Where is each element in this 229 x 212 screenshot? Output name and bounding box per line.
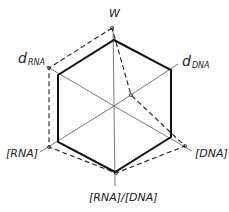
axis-dna (114, 106, 192, 151)
axis-lines (40, 26, 192, 186)
axis-w (113, 26, 114, 106)
label-d_dna: dDNA (182, 53, 210, 70)
label-rna_dna: [RNA]/[DNA] (89, 191, 158, 204)
label-dna: [DNA] (195, 147, 228, 160)
sample-profile-dashed (49, 28, 185, 173)
label-rna: [RNA] (6, 147, 38, 160)
axis-d_rna (46, 66, 114, 106)
axis-d_dna (114, 64, 178, 106)
label-d_rna: dRNA (18, 50, 45, 67)
axis-labels: WdDNA[DNA][RNA]/[DNA][RNA]dRNA (6, 7, 228, 204)
hexagon-radar-diagram: WdDNA[DNA][RNA]/[DNA][RNA]dRNA (0, 0, 229, 212)
label-w: W (109, 7, 121, 20)
axis-rna (40, 106, 114, 152)
